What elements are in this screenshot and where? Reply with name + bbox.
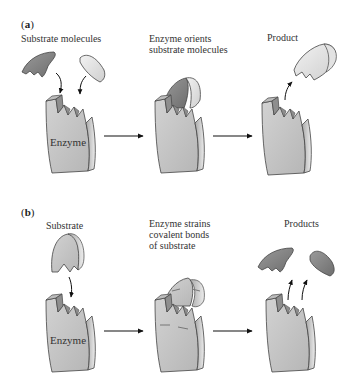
enzyme-shape [46,95,95,173]
enzyme-free [262,97,311,175]
enzyme-free-b [266,294,315,372]
release-arrow [285,82,292,100]
release-arrow-1 [288,280,292,300]
enzyme-shape-b [46,294,95,372]
enzyme-substrate-complex [155,78,204,173]
arrow-down-1 [56,73,61,93]
enzyme-mechanism-diagram: Enzyme Enzyme [0,0,357,373]
product-2 [310,251,334,276]
substrate-b [52,234,84,272]
arrow-down-2 [80,76,86,94]
enzyme-label-b: Enzyme [50,334,86,346]
product-1 [258,248,293,272]
enzyme-strained-complex [155,278,204,372]
substrate-dark-piece [22,52,55,77]
product-molecule [294,44,336,80]
enzyme-label: Enzyme [50,136,86,148]
arrow-down-b [69,277,72,297]
release-arrow-2 [302,280,307,300]
